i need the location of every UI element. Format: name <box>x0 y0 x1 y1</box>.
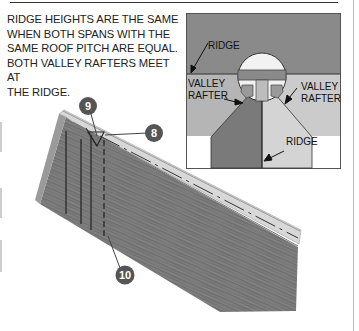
rafter-section <box>256 80 268 101</box>
label-ridge-top: RIDGE <box>208 40 240 51</box>
label-valley-rafter-left: RAFTER <box>188 90 228 101</box>
label-valley-rafter-right: VALLEY <box>301 81 338 92</box>
callout-number: 8 <box>151 127 157 139</box>
callout-8: 8 <box>145 124 163 142</box>
ridge-board <box>238 70 286 80</box>
label-valley-rafter-left: VALLEY <box>188 78 225 89</box>
callout-number: 10 <box>119 269 131 281</box>
callout-number: 9 <box>85 100 91 112</box>
callout-10: 10 <box>116 266 135 285</box>
ridge-plan-inset: RIDGE VALLEY RAFTER VALLEY RAFTER RIDGE <box>186 13 341 169</box>
callout-9: 9 <box>79 97 97 115</box>
label-valley-rafter-right: RAFTER <box>301 93 341 104</box>
label-ridge-bottom: RIDGE <box>286 136 318 147</box>
